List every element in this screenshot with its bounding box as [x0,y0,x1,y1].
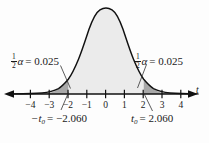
tick-label-0: 0 [98,100,114,110]
tick-label-1: 1 [116,100,132,110]
pos-t-value: = 2.060 [140,112,174,124]
alpha-value-left: = 0.025 [25,55,59,67]
alpha-label-right: 1 2 α= 0.025 [135,53,183,69]
alpha-symbol-left: α [18,55,24,67]
center-body-shading [68,8,143,94]
tick-label-neg2: −2 [60,100,76,110]
one-half-fraction-right: 1 2 [135,53,141,69]
tick-label-neg3: −3 [41,100,57,110]
axis-arrow-left [4,90,14,98]
alpha-value-right: = 0.025 [149,55,183,67]
pos-t-subscript: 0 [134,118,138,126]
critical-value-label-left: −t0= −2.060 [31,113,87,126]
tick-label-neg4: −4 [22,100,38,110]
tick-label-2: 2 [135,100,151,110]
t-distribution-figure: 1 2 α= 0.025 1 2 α= 0.025 −4 −3 −2 −1 0 … [0,0,209,143]
critical-value-label-right: t0= 2.060 [131,113,173,126]
alpha-symbol-right: α [142,55,148,67]
tick-label-neg1: −1 [79,100,95,110]
neg-t-subscript: 0 [41,118,45,126]
x-axis-label: t [196,85,199,95]
neg-t-value: = −2.060 [47,112,87,124]
tick-label-3: 3 [154,100,170,110]
alpha-label-left: 1 2 α= 0.025 [11,53,59,69]
tick-label-4: 4 [173,100,189,110]
neg-t-var: −t [31,112,41,124]
one-half-fraction-left: 1 2 [11,53,17,69]
